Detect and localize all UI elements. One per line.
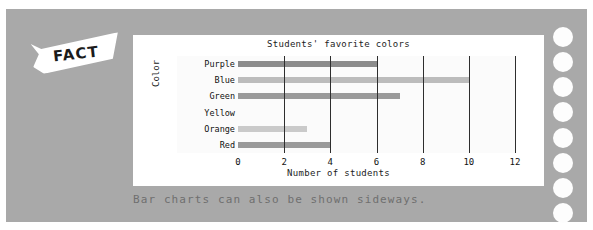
punch-hole (553, 203, 573, 223)
punch-hole (553, 77, 573, 97)
gridline (515, 56, 516, 153)
fact-badge-label: FACT (30, 32, 121, 75)
x-tick-label: 2 (281, 157, 286, 167)
y-tick-label: Orange (181, 125, 235, 133)
chart-panel: Students' favorite colors Color PurpleBl… (133, 35, 544, 186)
fact-badge: FACT (30, 32, 121, 75)
punch-hole (553, 178, 573, 198)
x-tick-label: 0 (235, 157, 240, 167)
x-tick-label: 8 (420, 157, 425, 167)
punch-hole (553, 102, 573, 122)
x-tick-label: 4 (328, 157, 333, 167)
y-tick-label: Yellow (181, 109, 235, 117)
y-tick-label: Red (181, 141, 235, 149)
y-tick-label: Green (181, 92, 235, 100)
x-tick-label: 10 (463, 157, 474, 167)
chart-caption: Bar charts can also be shown sideways. (133, 193, 426, 206)
bar-orange (238, 126, 307, 132)
gridline (469, 56, 470, 153)
y-axis-label: Color (151, 60, 161, 87)
x-tick-label: 6 (374, 157, 379, 167)
y-tick-label: Purple (181, 60, 235, 68)
x-axis-label: Number of students (133, 168, 544, 178)
punch-hole (553, 128, 573, 148)
x-tick-label: 12 (510, 157, 521, 167)
punch-hole (553, 27, 573, 47)
y-axis-tick-labels: PurpleBlueGreenYellowOrangeRed (177, 56, 235, 153)
punch-hole-strip (553, 27, 575, 223)
gridline (423, 56, 424, 153)
chart-title: Students' favorite colors (133, 39, 544, 49)
fact-card: FACT Students' favorite colors Color Pur… (6, 9, 587, 222)
punch-hole (553, 153, 573, 173)
bar-blue (238, 77, 469, 83)
gridline (284, 56, 285, 153)
y-tick-label: Blue (181, 76, 235, 84)
punch-hole (553, 52, 573, 72)
screenshot-root: FACT Students' favorite colors Color Pur… (0, 0, 593, 230)
bar-green (238, 93, 400, 99)
gridline (330, 56, 331, 153)
gridline (377, 56, 378, 153)
bar-purple (238, 61, 377, 67)
